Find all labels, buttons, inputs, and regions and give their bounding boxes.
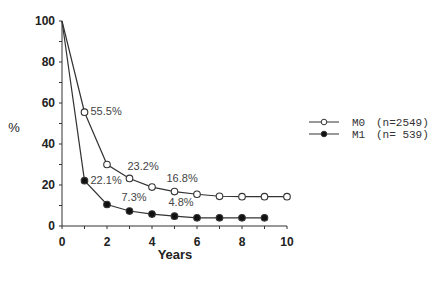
y-tick-label: 80 [42,55,56,69]
y-tick-label: 40 [42,137,56,151]
filled-circle-marker-icon [194,215,201,222]
legend-count: (n= 539) [376,129,429,141]
data-label: 16.8% [167,172,198,184]
open-circle-marker-icon [321,119,327,125]
legend-item-m1: M1(n= 539) [309,129,429,141]
filled-circle-marker-icon [104,201,111,208]
y-tick-label: 20 [42,178,56,192]
data-label: 7.3% [122,191,147,203]
open-circle-marker-icon [149,184,156,191]
legend-series-name: M0 [352,117,365,129]
filled-circle-marker-icon [216,215,223,222]
series-m1 [62,21,268,221]
x-tick-label: 2 [104,235,111,249]
x-tick-label: 0 [59,235,66,249]
open-circle-marker-icon [284,193,291,200]
open-circle-marker-icon [126,175,133,182]
y-tick-label: 100 [35,14,55,28]
data-label: 55.5% [91,105,122,117]
open-circle-marker-icon [239,193,246,200]
x-tick-label: 8 [239,235,246,249]
y-tick-label: 60 [42,96,56,110]
x-axis-title: Years [158,247,193,262]
filled-circle-marker-icon [239,215,246,222]
x-tick-label: 10 [280,235,294,249]
open-circle-marker-icon [194,191,201,198]
series-layer [62,21,290,221]
data-label: 22.1% [91,174,122,186]
legend-item-m0: M0(n=2549) [309,117,429,129]
filled-circle-marker-icon [126,208,133,215]
legend: M0(n=2549)M1(n= 539) [309,117,429,141]
x-tick-label: 4 [149,235,156,249]
y-tick-label: 0 [48,219,55,233]
x-tick-label: 6 [194,235,201,249]
series-line [62,21,265,218]
legend-count: (n=2549) [376,117,429,129]
axes: 0204060801000246810 [35,14,294,249]
y-axis-title: % [8,120,20,135]
filled-circle-marker-icon [261,215,268,222]
open-circle-marker-icon [171,188,178,195]
open-circle-marker-icon [261,193,268,200]
open-circle-marker-icon [104,161,111,168]
filled-circle-marker-icon [81,177,88,184]
data-label: 23.2% [128,160,159,172]
data-label: 4.8% [169,196,194,208]
filled-circle-marker-icon [149,211,156,218]
open-circle-marker-icon [216,193,223,200]
open-circle-marker-icon [81,109,88,116]
filled-circle-marker-icon [321,131,327,137]
legend-series-name: M1 [352,129,366,141]
filled-circle-marker-icon [171,213,178,220]
survival-chart: 0204060801000246810 55.5%23.2%16.8%22.1%… [0,0,435,283]
